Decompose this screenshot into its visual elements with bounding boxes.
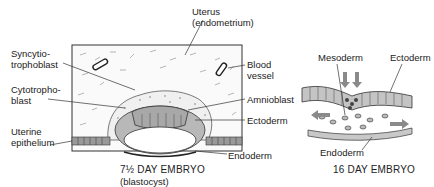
label-ectoderm-16: Ectoderm bbox=[390, 52, 431, 63]
label-blood-vessel: Blood bbox=[247, 59, 271, 70]
caption-7-5-day: 7½ DAY EMBRYO bbox=[120, 164, 205, 176]
label-blood-vessel-2: vessel bbox=[247, 70, 274, 81]
label-uterus: Uterus bbox=[192, 6, 220, 17]
caption-16-day: 16 DAY EMBRYO bbox=[333, 164, 415, 176]
label-syncytiotrophoblast: Syncytio- bbox=[11, 48, 50, 59]
label-amnioblast: Amnioblast bbox=[247, 94, 294, 105]
ectoderm-layer bbox=[302, 86, 412, 110]
label-syncytiotrophoblast-2: trophoblast bbox=[11, 59, 58, 70]
label-ectoderm: Ectoderm bbox=[247, 115, 288, 126]
label-cytotrophoblast-2: blast bbox=[11, 95, 31, 106]
label-endoderm-16: Endoderm bbox=[320, 147, 364, 158]
blastocyst-cavity bbox=[124, 127, 196, 153]
label-mesoderm: Mesoderm bbox=[318, 52, 363, 63]
diagram-canvas bbox=[0, 0, 434, 187]
label-uterine-epithelium-2: epithelium bbox=[11, 137, 54, 148]
label-cytotrophoblast: Cytotropho- bbox=[11, 84, 61, 95]
label-uterine-epithelium: Uterine bbox=[11, 126, 42, 137]
label-uterus-sub: (endometrium) bbox=[192, 17, 254, 28]
caption-blastocyst: (blastocyst) bbox=[120, 176, 169, 187]
embryonic-disc bbox=[132, 106, 188, 129]
label-endoderm: Endoderm bbox=[228, 150, 272, 161]
endoderm-layer bbox=[308, 128, 412, 140]
